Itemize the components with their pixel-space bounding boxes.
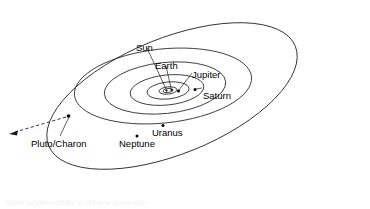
sun-dot [165,89,167,91]
motion-direction-arrow [9,117,66,136]
saturn-leader-line [196,88,202,89]
label-sun: Sun [136,43,153,53]
orbit-neptune [71,40,256,132]
figure-page: Sun Earth Jupiter Saturn Uranus Neptune … [0,0,370,209]
caption-showthrough: Solar system orbits in oblique projectio… [6,199,147,207]
direction-arrow-shaft [15,117,66,132]
label-earth: Earth [155,61,178,71]
orbit-inner-planets-2 [159,86,178,95]
orbit-pluto-charon [27,0,317,200]
label-jupiter: Jupiter [192,70,221,80]
pluto-charon-dot [67,114,71,118]
direction-arrow-head [9,131,18,136]
solar-system-diagram [0,0,370,209]
leader-line-group [60,48,202,136]
label-pluto-charon: Pluto/Charon [31,139,86,149]
label-uranus: Uranus [152,128,183,138]
earth-dot [170,89,172,91]
jupiter-dot [177,90,180,93]
pluto-leader-line [60,117,69,136]
orbit-jupiter [146,80,190,101]
saturn-dot [194,88,197,91]
label-neptune: Neptune [119,139,155,149]
orbit-group [27,0,317,200]
label-saturn: Saturn [203,91,231,101]
